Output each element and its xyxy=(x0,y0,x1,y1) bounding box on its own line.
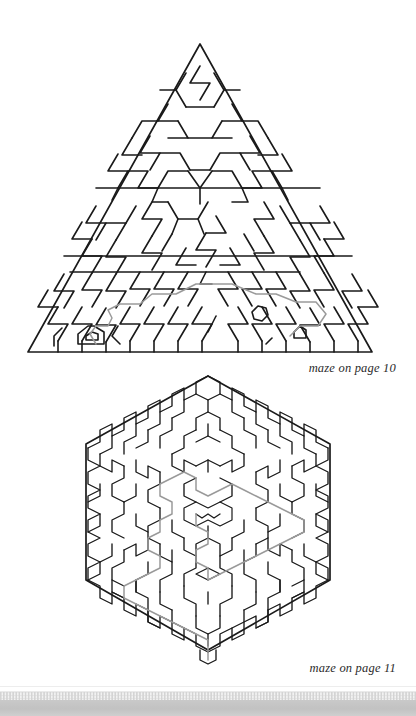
hexagon-solution-path xyxy=(124,472,304,660)
scan-gray-band xyxy=(0,700,416,716)
caption-hexagon-maze: maze on page 11 xyxy=(310,661,396,676)
triangle-maze-figure xyxy=(0,26,416,362)
triangle-maze-svg xyxy=(0,26,416,362)
scan-hairline xyxy=(0,686,416,687)
book-page: maze on page 10 xyxy=(0,0,416,716)
hexagon-maze-svg xyxy=(0,368,416,668)
hexagon-maze-figure xyxy=(0,368,416,668)
hexagon-maze-walls xyxy=(86,376,330,664)
triangle-maze-walls xyxy=(28,44,378,352)
